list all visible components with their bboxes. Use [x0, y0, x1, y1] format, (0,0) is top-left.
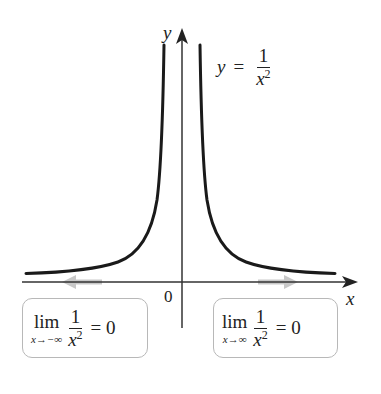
- limit-denominator-exponent: 2: [77, 328, 83, 342]
- limit-subscript: x→∞: [223, 334, 247, 345]
- limit-operator: lim x→∞: [222, 312, 247, 345]
- limit-result: = 0: [276, 317, 301, 339]
- equation-equals: =: [233, 56, 244, 78]
- equation-lhs: y: [217, 56, 225, 78]
- graph-figure: y x 0 y = 1 x2 lim x→−∞ 1 x2 = 0 lim x→∞…: [0, 0, 381, 394]
- limit-fraction: 1 x2: [253, 307, 267, 349]
- limit-word: lim: [34, 312, 59, 331]
- limit-operator: lim x→−∞: [31, 312, 62, 345]
- limit-numerator: 1: [254, 307, 268, 329]
- equation-fraction: 1 x2: [256, 46, 270, 88]
- y-axis-label: y: [163, 22, 171, 44]
- limit-word: lim: [222, 312, 247, 331]
- curve-left-branch: [26, 45, 164, 274]
- function-equation: y = 1 x2: [217, 46, 271, 88]
- origin-label: 0: [164, 287, 173, 307]
- limit-subscript: x→−∞: [31, 334, 62, 345]
- limit-denominator-exponent: 2: [262, 328, 268, 342]
- limit-denominator-base: x: [253, 329, 261, 350]
- limit-box-positive-infinity: lim x→∞ 1 x2 = 0: [213, 298, 338, 358]
- limit-numerator: 1: [69, 307, 83, 329]
- equation-numerator: 1: [257, 46, 271, 68]
- limit-denominator-base: x: [68, 329, 76, 350]
- limit-result: = 0: [91, 317, 116, 339]
- equation-denominator-exponent: 2: [265, 67, 271, 81]
- equation-denominator-base: x: [256, 68, 264, 89]
- limit-box-negative-infinity: lim x→−∞ 1 x2 = 0: [22, 298, 148, 358]
- y-axis: [176, 28, 188, 328]
- x-axis-label: x: [346, 288, 354, 310]
- limit-fraction: 1 x2: [68, 307, 82, 349]
